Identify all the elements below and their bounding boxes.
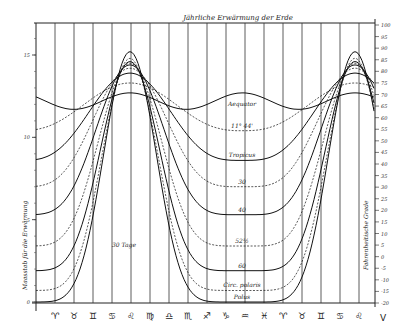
x-tick-label: ♓ <box>260 311 268 321</box>
right-tick-label: 95 <box>381 34 387 40</box>
right-tick-label: 85 <box>381 57 387 63</box>
right-tick-label: 80 <box>381 68 388 74</box>
right-tick-label: 25 <box>380 196 387 202</box>
right-tick-label: 30 <box>381 184 388 190</box>
x-tick-label: ♐ <box>203 311 211 321</box>
right-tick-label: -10 <box>381 277 390 283</box>
series-label: Polus <box>233 293 250 300</box>
chart: ♈♉♊♋♌♍♎♏♐♑♒♓♈♉♊♋♌V1510501009590858075706… <box>0 0 404 334</box>
series-label: 11° 44' <box>231 122 253 129</box>
series-label: Tropicus <box>229 151 256 159</box>
series-label: 40 <box>237 206 246 213</box>
x-tick-label: ♊ <box>317 311 325 321</box>
left-tick-label: 0 <box>27 299 31 305</box>
series-label: 30 <box>238 178 246 185</box>
right-tick-label: 90 <box>381 45 388 51</box>
series-line <box>36 65 374 215</box>
right-tick-label: 10 <box>381 231 388 237</box>
annotation-30-tage: 30 Tage <box>112 241 136 249</box>
x-tick-label: ♈ <box>51 311 60 321</box>
x-tick-label: ♌ <box>127 311 135 321</box>
left-tick-label: 10 <box>24 134 31 140</box>
right-tick-label: 45 <box>380 149 387 155</box>
right-tick-label: 70 <box>381 92 388 98</box>
x-tick-label: ♑ <box>222 311 230 321</box>
series-line <box>36 58 374 290</box>
series-line <box>36 68 374 187</box>
right-tick-label: 55 <box>381 126 387 132</box>
left-axis-label: Maasstab für die Erwärmung <box>21 200 29 291</box>
x-tick-label: ♒ <box>241 311 249 321</box>
x-tick-label: ♋ <box>336 311 344 321</box>
x-tick-label: ♌ <box>355 311 363 321</box>
series-label: Aequator <box>227 100 257 108</box>
right-tick-label: 5 <box>381 242 384 248</box>
x-end-label: V <box>380 313 387 323</box>
right-tick-label: 15 <box>381 219 387 225</box>
right-tick-label: 40 <box>380 161 388 167</box>
x-tick-label: ♈ <box>279 311 288 321</box>
x-tick-label: ♋ <box>108 311 116 321</box>
x-tick-label: ♍ <box>146 311 154 321</box>
right-tick-label: 75 <box>381 80 387 86</box>
right-tick-label: -20 <box>381 300 390 306</box>
right-tick-label: 65 <box>381 103 387 109</box>
right-tick-label: 60 <box>381 115 388 121</box>
x-tick-label: ♉ <box>298 311 306 321</box>
x-tick-label: ♊ <box>89 311 97 321</box>
series-label: 52½ <box>235 237 249 244</box>
x-tick-label: ♉ <box>70 311 78 321</box>
right-tick-label: 50 <box>381 138 388 144</box>
right-axis-label: Fahrenheitische Grade <box>362 200 369 271</box>
x-tick-label: ♏ <box>184 311 192 321</box>
series-line <box>36 62 374 271</box>
left-tick-label: 15 <box>24 52 30 58</box>
x-tick-label: ♎ <box>165 311 173 321</box>
series-label: 60 <box>238 262 246 269</box>
series-line <box>36 93 374 109</box>
right-tick-label: 20 <box>380 207 388 213</box>
right-tick-label: 35 <box>381 173 387 179</box>
right-tick-label: 0 <box>381 254 385 260</box>
series-label: Circ. polaris <box>223 281 260 289</box>
right-tick-label: -5 <box>381 265 386 271</box>
series-line <box>36 73 374 160</box>
right-tick-label: -15 <box>381 288 389 294</box>
chart-title: Jährliche Erwärmung der Erde <box>181 14 293 22</box>
right-tick-label: 100 <box>381 22 391 28</box>
